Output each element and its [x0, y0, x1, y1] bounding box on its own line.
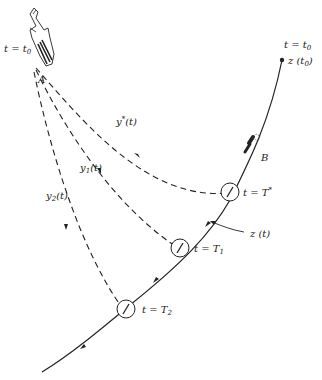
intercept-optimal-marker — [221, 183, 239, 201]
target-start-time-label: t = t0 — [284, 39, 312, 52]
target-b-label: B — [260, 152, 268, 163]
path-y2-label: y2(t) — [45, 190, 68, 203]
arrow-y2-icon — [64, 224, 68, 230]
arrow-y-star-icon — [134, 153, 140, 158]
target-start-pos-label: z (t0) — [287, 55, 313, 68]
intercept-1-label: t = T1 — [194, 243, 224, 256]
missile-a-label: A — [37, 74, 45, 85]
path-y1 — [36, 70, 178, 248]
path-y-star — [36, 68, 228, 193]
target-trajectory — [42, 60, 282, 372]
path-y1-label: y1(t) — [79, 162, 102, 175]
z-t-pointer — [210, 221, 244, 232]
intercept-2-label: t = T2 — [142, 304, 172, 317]
diagram-canvas: t = t0 A t = t0 z (t0) B y*(t) y1(t) y2(… — [0, 0, 322, 380]
target-path-label: z (t) — [249, 228, 270, 239]
missile-time-label: t = t0 — [4, 43, 32, 56]
intercept-1-marker — [171, 239, 189, 257]
target-start-dot — [280, 58, 284, 62]
missile-a-icon — [30, 8, 54, 66]
intercept-2-marker — [117, 300, 135, 318]
target-b-icon — [245, 134, 260, 152]
path-y-star-label: y*(t) — [115, 115, 137, 127]
intercept-optimal-label: t = T* — [243, 186, 272, 198]
arrow-target-1-icon — [205, 221, 211, 227]
